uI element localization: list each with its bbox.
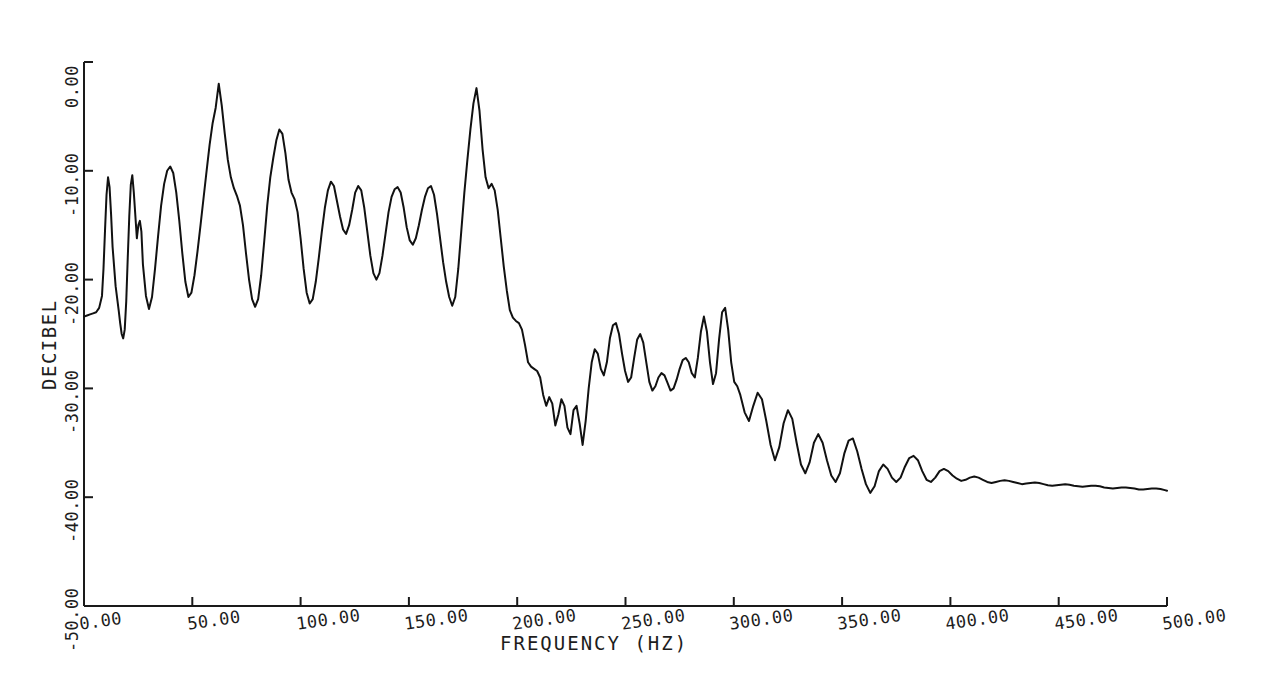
x-axis-title: FREQUENCY (HZ) (500, 632, 688, 654)
spectrum-plot-figure: 0.00-10.00-20.00-30.00-40.00-50.00 0.005… (0, 0, 1282, 680)
y-axis-title: DECIBEL (38, 299, 60, 390)
y-tick-label: 0.00 (62, 65, 82, 108)
y-tick-label: -40.00 (62, 479, 82, 543)
spectrum-data-line (84, 84, 1167, 493)
y-tick-marks (84, 62, 93, 606)
plot-canvas (0, 0, 1282, 680)
y-tick-label: -30.00 (62, 370, 82, 434)
y-tick-label: -20.00 (62, 261, 82, 325)
y-tick-label: -10.00 (62, 152, 82, 216)
